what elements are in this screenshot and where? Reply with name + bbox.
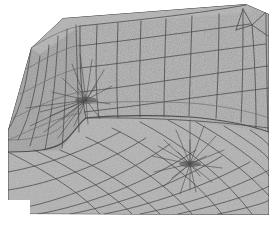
wireframe-canvas bbox=[0, 0, 269, 228]
collapse-node bbox=[179, 161, 201, 167]
mesh-body bbox=[8, 4, 269, 215]
background-notch bbox=[0, 200, 30, 228]
mesh-render-figure: filleted inner corner of two walls meeti… bbox=[0, 0, 269, 228]
collapse-node bbox=[75, 97, 97, 103]
